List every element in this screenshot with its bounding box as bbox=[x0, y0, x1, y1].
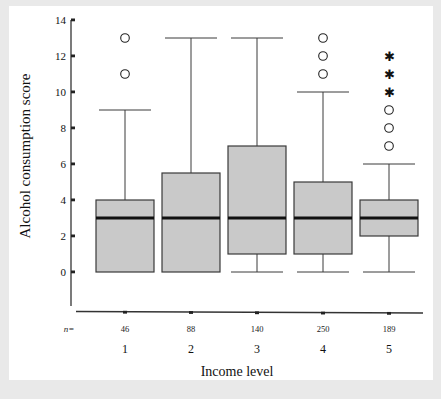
figure-panel: Alcohol consumption score 14 12 10 8 6 4… bbox=[9, 6, 433, 380]
y-tick-label: 12 bbox=[55, 50, 66, 62]
n-count-value: 250 bbox=[317, 324, 330, 334]
x-category-label: 4 bbox=[320, 342, 326, 356]
y-tick-label: 6 bbox=[61, 158, 67, 170]
y-tick-label: 0 bbox=[61, 266, 67, 278]
extreme-point: ✱ bbox=[384, 85, 395, 100]
box-plot-group-5: ✱✱✱ bbox=[360, 49, 418, 272]
extreme-point: ✱ bbox=[384, 49, 395, 64]
x-axis-title: Income level bbox=[201, 364, 274, 379]
box-iqr bbox=[96, 200, 154, 272]
box-plot-chart: Alcohol consumption score 14 12 10 8 6 4… bbox=[9, 6, 433, 380]
n-count-value: 189 bbox=[383, 324, 396, 334]
outlier-point bbox=[121, 70, 130, 79]
outlier-point bbox=[385, 142, 394, 151]
y-tick-label: 8 bbox=[61, 122, 67, 134]
x-tick-mark bbox=[255, 311, 259, 314]
box-series-layer: ✱✱✱ bbox=[96, 34, 418, 272]
extreme-point: ✱ bbox=[384, 67, 395, 82]
box-iqr bbox=[228, 146, 286, 254]
y-tick-label: 14 bbox=[55, 14, 67, 26]
y-tick-label: 2 bbox=[61, 230, 67, 242]
x-tick-mark bbox=[123, 311, 127, 314]
box-iqr bbox=[162, 173, 220, 272]
x-tick-mark bbox=[189, 311, 193, 314]
x-category-label: 3 bbox=[254, 342, 260, 356]
n-count-value: 140 bbox=[251, 324, 264, 334]
y-axis-ticks: 14 12 10 8 6 4 2 0 bbox=[55, 14, 75, 278]
x-category-label: 1 bbox=[122, 342, 128, 356]
outlier-point bbox=[319, 52, 328, 61]
x-axis-line bbox=[76, 312, 423, 314]
outlier-point bbox=[121, 34, 130, 43]
y-tick-label: 10 bbox=[55, 86, 67, 98]
outlier-point bbox=[385, 106, 394, 115]
outlier-point bbox=[319, 70, 328, 79]
box-plot-group-4 bbox=[294, 34, 352, 272]
box-plot-group-1 bbox=[96, 34, 154, 272]
x-category-label: 5 bbox=[386, 342, 392, 356]
n-count-header: n= bbox=[64, 324, 75, 334]
x-axis-labels: 461882140325041895 bbox=[121, 324, 396, 356]
outlier-point bbox=[319, 34, 328, 43]
x-category-label: 2 bbox=[188, 342, 194, 356]
outlier-point bbox=[385, 124, 394, 133]
box-plot-group-3 bbox=[228, 38, 286, 272]
box-plot-group-2 bbox=[162, 38, 220, 272]
y-axis-title: Alcohol consumption score bbox=[17, 73, 33, 238]
n-count-value: 88 bbox=[187, 324, 196, 334]
n-count-value: 46 bbox=[121, 324, 130, 334]
x-tick-mark bbox=[387, 312, 391, 315]
x-tick-mark bbox=[321, 312, 325, 315]
y-tick-label: 4 bbox=[61, 194, 67, 206]
